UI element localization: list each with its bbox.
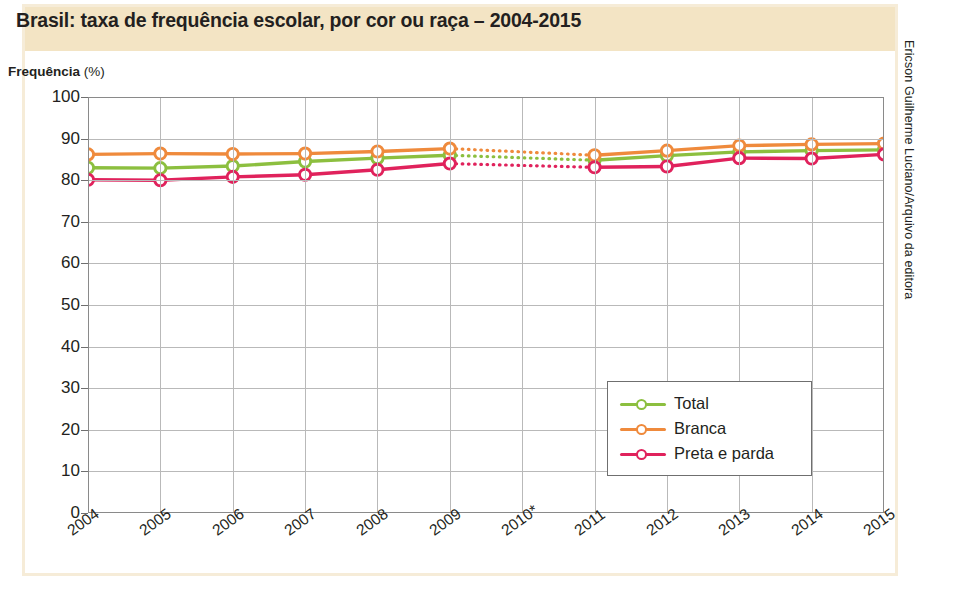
y-axis-tick-mark [81, 513, 88, 514]
y-axis-tick-label: 60 [40, 253, 80, 273]
legend-marker-circle-icon [636, 424, 647, 435]
gridline-horizontal [88, 305, 884, 306]
gridline-horizontal [88, 139, 884, 140]
series-line-total [812, 150, 884, 151]
chart-page: Brasil: taxa de frequência escolar, por … [0, 0, 956, 598]
gridline-vertical [160, 97, 161, 513]
y-axis-caption-unit: (%) [84, 64, 105, 79]
legend-item-total[interactable]: Total [608, 391, 811, 416]
legend-marker-circle-icon [636, 399, 647, 410]
data-point-marker [878, 149, 884, 160]
gridline-vertical [595, 97, 596, 513]
gridline-vertical [233, 97, 234, 513]
series-line-branca [667, 146, 739, 151]
series-line-preta-e-parda [305, 170, 377, 175]
series-line-preta-e-parda [667, 158, 739, 166]
series-line-branca [812, 144, 884, 145]
legend: TotalBrancaPreta e parda [607, 381, 812, 476]
series-line-branca [88, 154, 160, 155]
y-axis-tick-mark [81, 347, 88, 348]
y-axis-tick-label: 10 [40, 461, 80, 481]
legend-swatch-icon [620, 446, 666, 462]
data-point-marker [88, 149, 94, 160]
series-line-preta-e-parda [595, 166, 667, 167]
series-line-total [305, 158, 377, 161]
series-line-preta-e-parda [812, 154, 884, 158]
series-line-preta-e-parda [377, 164, 449, 170]
data-point-marker [88, 162, 94, 173]
legend-swatch-icon [620, 421, 666, 437]
gridline-horizontal [88, 222, 884, 223]
legend-label: Branca [674, 419, 726, 438]
series-line-preta-e-parda [233, 175, 305, 177]
y-axis-tick-labels: 0102030405060708090100 [36, 97, 80, 513]
gridline-horizontal [88, 180, 884, 181]
y-axis-tick-mark [81, 305, 88, 306]
y-axis-tick-mark [81, 139, 88, 140]
gridline-vertical [450, 97, 451, 513]
y-axis-tick-label: 0 [40, 503, 80, 523]
gridline-vertical [522, 97, 523, 513]
y-axis-tick-label: 100 [40, 87, 80, 107]
y-axis-tick-mark [81, 263, 88, 264]
y-axis-tick-mark [81, 388, 88, 389]
y-axis-tick-mark [81, 471, 88, 472]
gridline-vertical [377, 97, 378, 513]
page-title: Brasil: taxa de frequência escolar, por … [16, 9, 581, 32]
y-axis-tick-label: 80 [40, 170, 80, 190]
legend-marker-circle-icon [636, 449, 647, 460]
gridline-horizontal [88, 347, 884, 348]
y-axis-tick-label: 40 [40, 337, 80, 357]
legend-label: Preta e parda [674, 444, 774, 463]
series-line-branca [377, 149, 449, 152]
y-axis-tick-label: 70 [40, 212, 80, 232]
gridline-vertical [305, 97, 306, 513]
credit-text: Ericson Guilherme Luciano/Arquivo da edi… [902, 40, 916, 299]
series-line-total [595, 156, 667, 161]
series-line-branca [739, 144, 811, 145]
y-axis-caption-bold: Frequência [8, 64, 80, 79]
y-axis-tick-label: 90 [40, 129, 80, 149]
legend-label: Total [674, 394, 709, 413]
series-line-branca [305, 151, 377, 153]
series-line-total [739, 151, 811, 152]
legend-item-branca[interactable]: Branca [608, 416, 811, 441]
series-line-total [667, 152, 739, 156]
gridline-horizontal [88, 263, 884, 264]
y-axis-tick-mark [81, 430, 88, 431]
y-axis-tick-mark [81, 180, 88, 181]
y-axis-tick-mark [81, 222, 88, 223]
legend-item-preta-e-parda[interactable]: Preta e parda [608, 441, 811, 466]
series-line-total [160, 166, 232, 168]
series-line-total [233, 161, 305, 166]
y-axis-caption: Frequência (%) [8, 64, 105, 79]
series-line-branca [595, 151, 667, 156]
legend-swatch-icon [620, 396, 666, 412]
y-axis-tick-label: 20 [40, 420, 80, 440]
y-axis-tick-mark [81, 97, 88, 98]
y-axis-tick-label: 30 [40, 378, 80, 398]
series-line-total [377, 155, 449, 158]
y-axis-tick-label: 50 [40, 295, 80, 315]
